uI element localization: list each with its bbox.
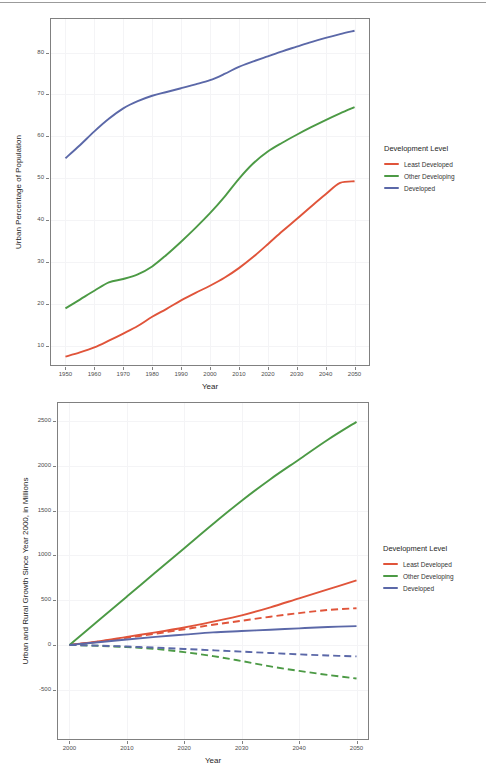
- series-line: [69, 645, 356, 656]
- figure-1-y-axis-title: Urban Percentage of Population: [14, 18, 23, 366]
- x-tick-mark: [326, 367, 327, 370]
- figure-1-series-lines: [51, 19, 369, 365]
- figure-1-plot-panel: [50, 18, 370, 366]
- x-tick-mark: [181, 367, 182, 370]
- legend-color-swatch: [384, 187, 399, 189]
- figure-2-legend: Development Level Least DevelopedOther D…: [383, 544, 454, 594]
- legend-item-label: Developed: [404, 185, 435, 192]
- figure-urban-percentage: Urban Percentage of Population 102030405…: [0, 8, 486, 390]
- x-tick-mark: [69, 741, 70, 744]
- x-tick-mark: [355, 367, 356, 370]
- legend-item-other-developing[interactable]: Other Developing: [384, 170, 455, 182]
- legend-title: Development Level: [383, 544, 454, 553]
- figure-2-plot-panel: [57, 402, 369, 740]
- legend-item-label: Least Developed: [404, 161, 453, 168]
- series-line: [65, 181, 354, 356]
- figure-2-x-axis-title: Year: [57, 756, 369, 765]
- x-tick-label: 2040: [312, 371, 340, 377]
- y-tick-label: -500: [27, 686, 51, 692]
- legend-color-swatch: [383, 575, 398, 577]
- x-tick-label: 1980: [138, 371, 166, 377]
- y-tick-label: 2000: [27, 462, 51, 468]
- y-tick-label: 40: [20, 216, 44, 222]
- y-tick-mark: [46, 346, 49, 347]
- y-tick-label: 80: [20, 49, 44, 55]
- y-tick-label: 10: [20, 342, 44, 348]
- x-tick-mark: [94, 367, 95, 370]
- x-tick-label: 1950: [51, 371, 79, 377]
- figure-1-x-axis-title: Year: [50, 382, 370, 391]
- legend-item-developed[interactable]: Developed: [384, 182, 455, 194]
- legend-item-developed[interactable]: Developed: [383, 582, 454, 594]
- x-tick-mark: [184, 741, 185, 744]
- y-tick-label: 30: [20, 258, 44, 264]
- x-tick-label: 2010: [113, 745, 141, 751]
- x-tick-mark: [299, 741, 300, 744]
- legend-color-swatch: [383, 563, 398, 565]
- legend-item-least-developed[interactable]: Least Developed: [383, 558, 454, 570]
- y-tick-label: 2500: [27, 417, 51, 423]
- y-tick-mark: [53, 600, 56, 601]
- x-tick-mark: [297, 367, 298, 370]
- x-tick-label: 2040: [285, 745, 313, 751]
- x-tick-mark: [123, 367, 124, 370]
- x-tick-label: 2020: [254, 371, 282, 377]
- y-tick-mark: [46, 136, 49, 137]
- legend-item-label: Least Developed: [403, 561, 452, 568]
- legend-items: Least DevelopedOther DevelopingDeveloped: [383, 558, 454, 594]
- legend-color-swatch: [384, 163, 399, 165]
- x-tick-mark: [152, 367, 153, 370]
- legend-item-other-developing[interactable]: Other Developing: [383, 570, 454, 582]
- y-tick-mark: [46, 178, 49, 179]
- y-tick-label: 1000: [27, 551, 51, 557]
- legend-color-swatch: [384, 175, 399, 177]
- y-tick-mark: [53, 645, 56, 646]
- y-tick-label: 70: [20, 90, 44, 96]
- y-tick-mark: [53, 466, 56, 467]
- y-tick-mark: [46, 304, 49, 305]
- y-tick-mark: [53, 555, 56, 556]
- y-tick-mark: [46, 53, 49, 54]
- x-tick-mark: [65, 367, 66, 370]
- x-tick-mark: [239, 367, 240, 370]
- x-tick-label: 1970: [109, 371, 137, 377]
- legend-item-label: Other Developing: [403, 573, 454, 580]
- y-tick-label: 0: [27, 641, 51, 647]
- x-tick-mark: [268, 367, 269, 370]
- x-tick-mark: [127, 741, 128, 744]
- y-tick-mark: [53, 511, 56, 512]
- figure-2-series-lines: [58, 403, 368, 739]
- x-tick-label: 2020: [170, 745, 198, 751]
- x-tick-label: 2050: [343, 745, 371, 751]
- figure-1-legend: Development Level Least DevelopedOther D…: [384, 144, 455, 194]
- y-tick-label: 60: [20, 132, 44, 138]
- series-line: [65, 31, 354, 159]
- legend-title: Development Level: [384, 144, 455, 153]
- legend-item-label: Other Developing: [404, 173, 455, 180]
- x-tick-label: 1960: [80, 371, 108, 377]
- y-tick-mark: [53, 421, 56, 422]
- series-line: [69, 580, 356, 645]
- legend-color-swatch: [383, 587, 398, 589]
- y-tick-label: 50: [20, 174, 44, 180]
- y-tick-mark: [46, 94, 49, 95]
- x-tick-label: 1990: [167, 371, 195, 377]
- figure-urban-rural-growth: Urban and Rural Growth Since Year 2000, …: [0, 392, 486, 782]
- y-tick-mark: [46, 262, 49, 263]
- legend-items: Least DevelopedOther DevelopingDeveloped: [384, 158, 455, 194]
- x-tick-mark: [357, 741, 358, 744]
- legend-item-label: Developed: [403, 585, 434, 592]
- page-top-rule: [0, 2, 486, 3]
- legend-item-least-developed[interactable]: Least Developed: [384, 158, 455, 170]
- x-tick-label: 2010: [225, 371, 253, 377]
- x-tick-label: 2000: [55, 745, 83, 751]
- series-line: [65, 107, 354, 308]
- x-tick-mark: [242, 741, 243, 744]
- y-tick-label: 20: [20, 300, 44, 306]
- series-line: [69, 626, 356, 645]
- x-tick-mark: [210, 367, 211, 370]
- x-tick-label: 2000: [196, 371, 224, 377]
- x-tick-label: 2030: [283, 371, 311, 377]
- y-tick-label: 500: [27, 596, 51, 602]
- y-tick-mark: [46, 220, 49, 221]
